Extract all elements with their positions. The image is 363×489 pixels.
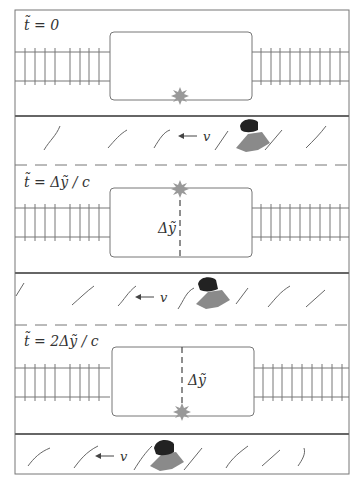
time-label: t̃ = 2Δỹ / c bbox=[24, 331, 99, 349]
svg-text:v: v bbox=[120, 449, 128, 464]
svg-text:v: v bbox=[203, 129, 211, 144]
velocity-arrow: v bbox=[95, 449, 128, 464]
panel-3: Δỹ t̃ = 2Δỹ / c v bbox=[15, 331, 349, 471]
track-left bbox=[15, 48, 110, 85]
ground-strokes bbox=[16, 283, 325, 309]
track-left bbox=[15, 204, 110, 241]
light-clock-train-diagram: t̃ = 0 ← v v bbox=[0, 0, 363, 489]
track-left bbox=[15, 364, 110, 401]
time-label: t̃ = Δỹ / c bbox=[24, 172, 90, 190]
train-car bbox=[110, 188, 252, 257]
delta-y-label: Δỹ bbox=[157, 220, 177, 236]
delta-y-label: Δỹ bbox=[187, 372, 207, 388]
observer-icon bbox=[236, 119, 270, 152]
time-label: t̃ = 0 bbox=[24, 15, 59, 33]
velocity-arrow: ← v v bbox=[178, 129, 211, 144]
ground-strokes bbox=[44, 126, 326, 150]
svg-text:v: v bbox=[160, 290, 168, 305]
observer-icon bbox=[196, 277, 230, 309]
track-right bbox=[252, 48, 349, 85]
panel-1: t̃ = 0 ← v v bbox=[15, 15, 349, 165]
panel-2: Δỹ t̃ = Δỹ / c v bbox=[15, 172, 349, 325]
observer-icon bbox=[150, 440, 184, 471]
track-right bbox=[254, 364, 349, 401]
track-right bbox=[252, 204, 349, 241]
velocity-arrow: v bbox=[135, 290, 168, 305]
